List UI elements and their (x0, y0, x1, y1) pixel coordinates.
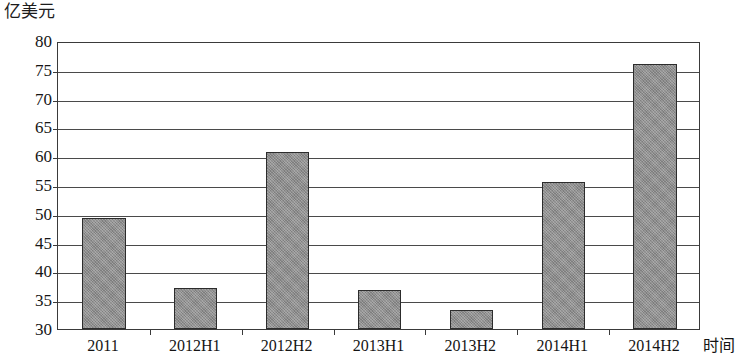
y-axis-tick-labels: 8075706560555045403530 (0, 0, 52, 360)
y-axis-tick-label: 75 (4, 62, 52, 79)
bar-chart: 亿美元 8075706560555045403530 20112012H1201… (0, 0, 742, 360)
y-axis-tickmark (53, 158, 58, 159)
gridline (58, 158, 699, 159)
y-axis-tick-label: 55 (4, 177, 52, 194)
gridline (58, 101, 699, 102)
gridline (58, 129, 699, 130)
x-axis-title: 时间 (703, 336, 735, 356)
y-axis-tick-label: 45 (4, 235, 52, 252)
plot-area (57, 42, 700, 330)
bar (450, 310, 493, 329)
gridline (58, 187, 699, 188)
x-axis-tickmark (609, 329, 610, 335)
y-axis-tick-label: 65 (4, 119, 52, 136)
y-axis-tickmark (53, 245, 58, 246)
y-axis-tickmark (53, 72, 58, 73)
x-axis-tick-label: 2011 (57, 336, 149, 356)
gridline (58, 216, 699, 217)
bar (266, 152, 309, 329)
x-axis-tick-label: 2012H1 (149, 336, 241, 356)
x-axis-tick-label: 2014H2 (608, 336, 700, 356)
bar (633, 64, 676, 329)
x-axis-tickmark (425, 329, 426, 335)
y-axis-tickmark (53, 273, 58, 274)
y-axis-tick-label: 70 (4, 91, 52, 108)
x-axis-tickmark (242, 329, 243, 335)
y-axis-tick-label: 30 (4, 321, 52, 338)
bar (82, 218, 125, 329)
x-axis-tick-label: 2012H2 (241, 336, 333, 356)
bar (174, 288, 217, 329)
y-axis-tick-label: 50 (4, 206, 52, 223)
y-axis-tickmark (53, 187, 58, 188)
x-axis-tick-labels: 20112012H12012H22013H12013H22014H12014H2 (57, 336, 700, 360)
gridline (58, 273, 699, 274)
y-axis-tickmark (53, 129, 58, 130)
x-axis-tickmark (334, 329, 335, 335)
x-axis-tick-label: 2013H2 (424, 336, 516, 356)
y-axis-tick-label: 60 (4, 148, 52, 165)
y-axis-tick-label: 35 (4, 292, 52, 309)
x-axis-tickmark (150, 329, 151, 335)
y-axis-tick-label: 40 (4, 263, 52, 280)
x-axis-tick-label: 2014H1 (516, 336, 608, 356)
gridline (58, 245, 699, 246)
bar (542, 182, 585, 329)
bar (358, 290, 401, 329)
y-axis-tickmark (53, 101, 58, 102)
y-axis-tick-label: 80 (4, 33, 52, 50)
x-axis-tickmark (517, 329, 518, 335)
x-axis-tick-label: 2013H1 (333, 336, 425, 356)
y-axis-tickmark (53, 216, 58, 217)
gridline (58, 72, 699, 73)
y-axis-tickmark (53, 302, 58, 303)
